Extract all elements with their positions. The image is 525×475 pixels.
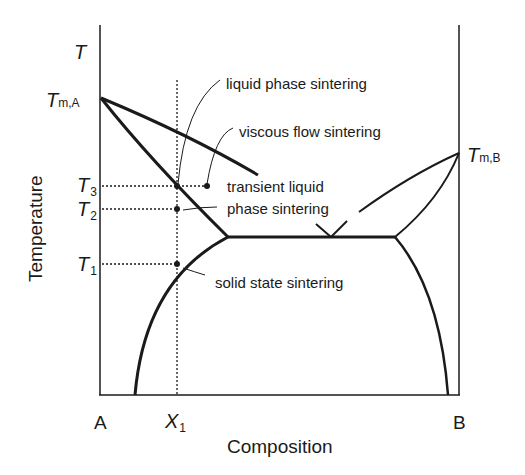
leader-viscous-flow — [207, 128, 233, 184]
tm-b-label: Tm,B — [467, 145, 501, 165]
t3-label: T3 — [77, 175, 97, 195]
solvus-curve-a — [135, 237, 228, 395]
tm-a-label: Tm,A — [46, 90, 80, 110]
annotation-liquid-phase-sintering: liquid phase sintering — [226, 76, 367, 91]
liquidus-curve-b — [331, 221, 347, 237]
annotation-transient-line2: phase sintering — [227, 201, 329, 216]
point-t3-x1 — [174, 183, 180, 189]
point-t1-x1 — [174, 261, 180, 267]
leader-liquid-phase — [178, 80, 220, 184]
x-axis-left-label: A — [94, 413, 107, 432]
eutectic-v-left — [316, 224, 331, 237]
x-axis-label: Composition — [227, 437, 333, 456]
solidus-curve-a — [101, 98, 228, 237]
t1-label: T1 — [77, 254, 97, 274]
t2-label: T2 — [77, 199, 97, 219]
y-axis-label: Temperature — [26, 175, 45, 282]
solidus-curve-b — [395, 153, 459, 237]
x1-label: X1 — [165, 411, 186, 431]
solvus-curve-b — [395, 237, 448, 395]
annotation-solid-state-sintering: solid state sintering — [215, 275, 343, 290]
x-axis-right-label: B — [453, 413, 466, 432]
leader-solid-state — [183, 268, 205, 275]
point-t2-x1 — [174, 206, 180, 212]
liquidus-curve-a — [101, 98, 258, 175]
y-axis-symbol: T — [74, 42, 86, 62]
phase-diagram-canvas — [0, 0, 525, 475]
annotation-viscous-flow-sintering: viscous flow sintering — [239, 124, 381, 139]
annotation-transient-line1: transient liquid — [227, 179, 324, 194]
